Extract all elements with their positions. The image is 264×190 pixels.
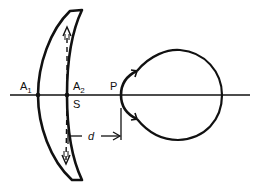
vertex-a2-dot [65, 93, 70, 98]
lens-eye-diagram: A1 A2 S P d [0, 0, 264, 190]
distance-d-dimension [68, 108, 121, 144]
label-a1: A1 [20, 80, 32, 95]
label-p: P [110, 80, 117, 92]
label-s: S [73, 98, 80, 110]
label-a2: A2 [73, 80, 85, 95]
vertex-a1-dot [36, 93, 41, 98]
label-d: d [88, 130, 95, 142]
